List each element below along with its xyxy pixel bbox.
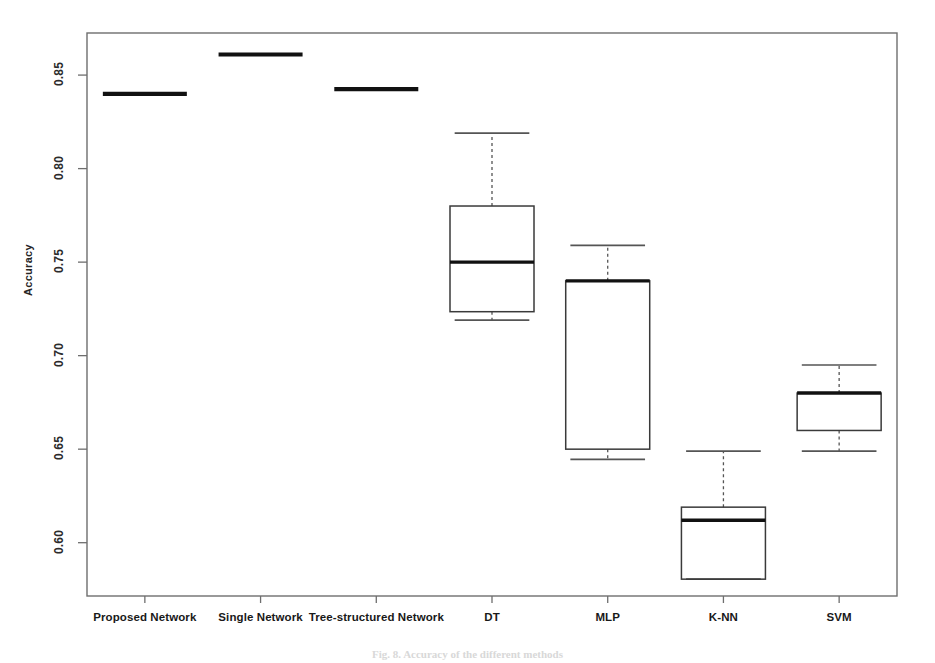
- x-tick-label: SVM: [827, 611, 852, 623]
- x-tick-label: Single Network: [218, 611, 302, 623]
- y-tick-label: 0.60: [52, 522, 66, 562]
- plot-canvas: [0, 0, 935, 663]
- figure-caption: Fig. 8. Accuracy of the different method…: [0, 648, 935, 660]
- x-tick-label: K-NN: [709, 611, 738, 623]
- x-tick-label: Proposed Network: [93, 611, 196, 623]
- boxplot-figure: Accuracy Fig. 8. Accuracy of the differe…: [0, 0, 935, 663]
- x-tick-label: Tree-structured Network: [309, 611, 444, 623]
- y-tick-label: 0.80: [52, 148, 66, 188]
- x-tick-label: MLP: [595, 611, 620, 623]
- y-axis-title: Accuracy: [22, 196, 34, 296]
- y-tick-label: 0.65: [52, 428, 66, 468]
- y-tick-label: 0.75: [52, 241, 66, 281]
- x-tick-label: DT: [484, 611, 500, 623]
- y-tick-label: 0.70: [52, 335, 66, 375]
- y-axis-ticks: [78, 75, 87, 543]
- y-tick-label: 0.85: [52, 54, 66, 94]
